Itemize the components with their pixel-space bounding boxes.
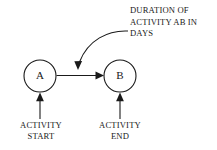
start-pointer-arrow [36, 93, 44, 120]
duration-annotation: DURATION OF ACTIVITY AB IN DAYS [130, 5, 198, 38]
caption-activity-end-line-1: ACTIVITY [99, 120, 141, 130]
activity-arrow-a-to-b [57, 72, 105, 80]
annotation-leader-arrowhead [74, 61, 82, 70]
start-pointer-head [36, 93, 44, 102]
activity-diagram-canvas: A B DURATION OF ACTIVITY AB IN DAYS [0, 0, 217, 150]
caption-activity-start-line-1: ACTIVITY [20, 120, 62, 130]
activity-arrow-head [96, 72, 105, 80]
node-b[interactable]: B [104, 60, 136, 92]
diagram-svg: A B DURATION OF ACTIVITY AB IN DAYS [0, 0, 217, 150]
caption-activity-start: ACTIVITY START [20, 120, 62, 141]
end-pointer-arrow [116, 93, 124, 120]
node-a[interactable]: A [24, 60, 56, 92]
caption-activity-end-line-2: END [111, 131, 129, 141]
end-pointer-head [116, 93, 124, 102]
caption-activity-end: ACTIVITY END [99, 120, 141, 141]
duration-annotation-line-1: DURATION OF [130, 5, 189, 15]
annotation-leader-path [80, 31, 129, 62]
node-a-label: A [36, 69, 44, 81]
node-b-label: B [116, 69, 123, 81]
caption-activity-start-line-2: START [28, 131, 55, 141]
duration-annotation-line-2: ACTIVITY AB IN [130, 17, 198, 27]
duration-annotation-line-3: DAYS [130, 28, 153, 38]
